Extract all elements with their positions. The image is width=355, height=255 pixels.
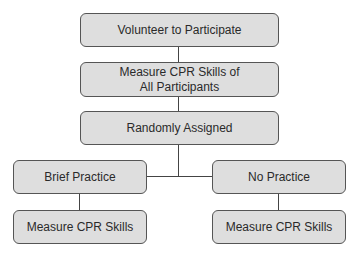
node-random: Randomly Assigned <box>80 111 279 145</box>
node-measure-brief: Measure CPR Skills <box>13 210 147 244</box>
connector-measure-random <box>178 96 179 111</box>
connector-volunteer-measure <box>178 46 179 62</box>
node-no-practice: No Practice <box>212 160 346 194</box>
node-brief-practice: Brief Practice <box>13 160 147 194</box>
node-no-practice-label: No Practice <box>248 170 310 185</box>
node-brief-practice-label: Brief Practice <box>44 170 115 185</box>
node-measure-brief-label: Measure CPR Skills <box>27 220 134 235</box>
node-measure-none-label: Measure CPR Skills <box>226 220 333 235</box>
connector-none-measure <box>278 193 279 210</box>
connector-random-split <box>178 144 179 177</box>
node-measure-all: Measure CPR Skills of All Participants <box>80 62 279 97</box>
node-volunteer: Volunteer to Participate <box>80 13 279 47</box>
node-volunteer-label: Volunteer to Participate <box>117 23 241 38</box>
node-measure-all-line2: All Participants <box>119 80 239 95</box>
node-measure-none: Measure CPR Skills <box>212 210 346 244</box>
connector-horizontal-branch <box>146 176 212 177</box>
node-random-label: Randomly Assigned <box>126 121 232 136</box>
connector-brief-measure <box>79 193 80 210</box>
node-measure-all-line1: Measure CPR Skills of <box>119 65 239 80</box>
